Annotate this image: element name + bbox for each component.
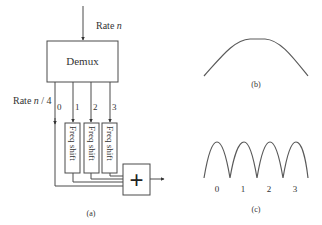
channel-label-3: 3 xyxy=(112,102,117,112)
output-rate-label: Rate n / 4 xyxy=(13,95,52,106)
bump-label-3: 3 xyxy=(293,184,298,194)
route-1 xyxy=(73,173,123,182)
caption-b: (b) xyxy=(251,80,261,89)
bump-label-0: 0 xyxy=(215,184,220,194)
panel-c: 0 1 2 3 (c) xyxy=(204,142,308,214)
freq-shift-label-3: Freq shift xyxy=(105,126,115,161)
freq-shift-label-1: Freq shift xyxy=(68,126,78,161)
diagram-canvas: Rate n Demux Rate n / 4 0 1 2 3 Freq shi… xyxy=(0,0,322,225)
channel-label-2: 2 xyxy=(93,102,98,112)
channel-label-1: 1 xyxy=(75,102,80,112)
caption-c: (c) xyxy=(252,205,261,214)
panel-b: (b) xyxy=(204,39,308,89)
subband-spectrum-curve xyxy=(204,142,308,178)
freq-shift-label-2: Freq shift xyxy=(87,126,97,161)
channel-label-0: 0 xyxy=(57,102,62,112)
caption-a: (a) xyxy=(87,209,96,218)
adder-plus-symbol: + xyxy=(129,166,143,193)
bump-label-1: 1 xyxy=(241,184,246,194)
demux-label: Demux xyxy=(66,55,99,67)
bump-label-2: 2 xyxy=(267,184,272,194)
input-rate-label: Rate n xyxy=(96,20,122,31)
wideband-spectrum-curve xyxy=(204,39,308,76)
panel-a: Rate n Demux Rate n / 4 0 1 2 3 Freq shi… xyxy=(13,6,164,218)
